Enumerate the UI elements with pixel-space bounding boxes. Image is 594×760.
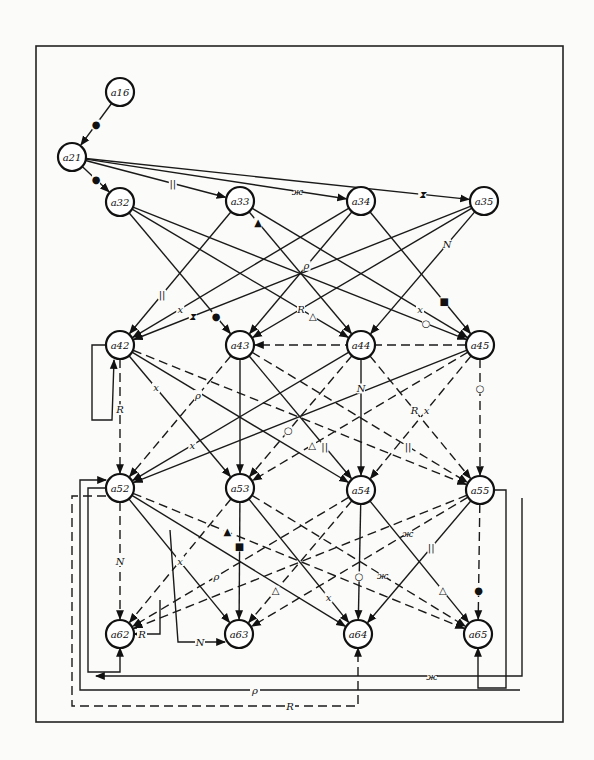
edge-a55-a65 bbox=[478, 504, 480, 619]
edge-marker: х bbox=[417, 304, 423, 315]
edge-marker: ▲ bbox=[224, 526, 232, 537]
edge-marker: ○ bbox=[422, 318, 431, 329]
edge-marker: ρ bbox=[251, 685, 258, 696]
routed-edge bbox=[80, 480, 520, 690]
node-label: a44 bbox=[352, 340, 371, 351]
node-label: a45 bbox=[471, 340, 490, 351]
node-a53: a53 bbox=[226, 474, 254, 502]
node-a63: a63 bbox=[225, 620, 253, 648]
node-label: a52 bbox=[111, 483, 130, 494]
node-a34: a34 bbox=[347, 187, 375, 215]
node-label: a63 bbox=[230, 629, 249, 640]
node-a55: a55 bbox=[466, 476, 494, 504]
edge-marker: △ bbox=[272, 585, 280, 596]
edge-marker: N bbox=[356, 383, 367, 394]
edge-marker: ж bbox=[426, 671, 438, 682]
node-a21: a21 bbox=[58, 143, 86, 171]
edge-marker: ○ bbox=[284, 425, 293, 436]
edge-marker: R bbox=[285, 701, 294, 712]
node-label: a62 bbox=[111, 629, 130, 640]
edge-marker: ■ bbox=[440, 296, 449, 307]
edge-marker: ● bbox=[474, 585, 483, 596]
edge-marker: ● bbox=[92, 174, 101, 185]
node-label: a43 bbox=[231, 340, 250, 351]
edge-a21-a35 bbox=[86, 158, 469, 199]
edge-a44-a55 bbox=[370, 356, 471, 479]
edge-marker: ⧗ bbox=[189, 311, 197, 322]
edge-a53-a64 bbox=[249, 499, 349, 622]
edge-marker: х bbox=[177, 556, 183, 567]
node-label: a34 bbox=[352, 196, 371, 207]
node-a54: a54 bbox=[347, 476, 375, 504]
edge-marker: N bbox=[442, 239, 453, 250]
edge-marker: || bbox=[405, 441, 412, 453]
edge-marker: ρ bbox=[303, 260, 310, 271]
node-a43: a43 bbox=[226, 331, 254, 359]
edge-marker: х bbox=[424, 405, 430, 416]
edge-marker: N bbox=[195, 637, 206, 648]
routed-edge bbox=[96, 498, 522, 676]
node-a64: a64 bbox=[344, 620, 372, 648]
node-label: a65 bbox=[469, 629, 488, 640]
edge-marker: ρ bbox=[212, 571, 219, 582]
edge-a53-a63 bbox=[239, 502, 240, 619]
edge-marker: R bbox=[410, 405, 419, 416]
edge-marker: х bbox=[153, 382, 159, 393]
node-label: a53 bbox=[231, 483, 250, 494]
node-label: a64 bbox=[349, 629, 368, 640]
edge-marker: ■ bbox=[235, 541, 244, 552]
edge-marker: ж bbox=[292, 186, 304, 197]
edge-markers-layer: ●●||ж⧗●△○||▲ххρ■⧗RNхRρ||||х○RN△х○▲Nххж■ρ… bbox=[92, 119, 485, 712]
edge-marker: || bbox=[428, 542, 435, 554]
edge-marker: △ bbox=[309, 311, 317, 322]
edge-a45-a54 bbox=[371, 356, 472, 479]
node-label: a42 bbox=[111, 340, 130, 351]
edge-marker: ▲ bbox=[254, 217, 262, 228]
edge-marker: х bbox=[177, 304, 183, 315]
node-a35: a35 bbox=[470, 187, 498, 215]
node-a16: a16 bbox=[106, 78, 134, 106]
node-label: a21 bbox=[63, 152, 82, 163]
edge-a35-a44 bbox=[371, 212, 475, 334]
edge-marker: || bbox=[169, 178, 176, 190]
node-a45: a45 bbox=[466, 331, 494, 359]
edge-marker: ж bbox=[377, 570, 389, 581]
edge-marker: х bbox=[326, 592, 332, 603]
routed-edge bbox=[72, 496, 358, 706]
node-label: a32 bbox=[111, 197, 130, 208]
edge-a35-a43 bbox=[253, 208, 472, 337]
edge-a33-a45 bbox=[252, 208, 467, 337]
edge-marker: || bbox=[321, 441, 328, 453]
node-label: a54 bbox=[352, 485, 371, 496]
edge-marker: R bbox=[296, 304, 305, 315]
edge-marker: △ bbox=[439, 585, 447, 596]
edge-marker: R bbox=[115, 404, 124, 415]
edge-marker: х bbox=[189, 440, 195, 451]
edge-marker: ○ bbox=[476, 383, 485, 394]
node-a65: a65 bbox=[464, 620, 492, 648]
edge-marker: || bbox=[159, 289, 166, 301]
edge-marker: ● bbox=[212, 311, 221, 322]
edge-marker: R bbox=[137, 629, 146, 640]
edge-a55-a64 bbox=[368, 501, 471, 623]
node-a33: a33 bbox=[226, 187, 254, 215]
node-label: a33 bbox=[231, 196, 250, 207]
edge-a44-a52 bbox=[133, 352, 349, 480]
edge-marker: ○ bbox=[355, 571, 364, 582]
edge-a45-a52 bbox=[134, 350, 467, 482]
edge-marker: △ bbox=[308, 440, 316, 451]
node-label: a35 bbox=[475, 196, 494, 207]
node-a44: a44 bbox=[347, 331, 375, 359]
edge-marker: ⧗ bbox=[419, 189, 427, 200]
edge-marker: ● bbox=[92, 119, 101, 130]
edge-marker: ж bbox=[402, 528, 414, 539]
edge-marker: N bbox=[115, 556, 126, 567]
node-a62: a62 bbox=[106, 620, 134, 648]
edge-a34-a45 bbox=[370, 212, 471, 334]
node-a42: a42 bbox=[106, 331, 134, 359]
node-label: a16 bbox=[111, 87, 130, 98]
graph-diagram: ●●||ж⧗●△○||▲ххρ■⧗RNхRρ||||х○RN△х○▲Nххж■ρ… bbox=[0, 0, 594, 760]
node-label: a55 bbox=[471, 485, 490, 496]
edge-marker: ρ bbox=[194, 390, 201, 401]
node-a32: a32 bbox=[106, 188, 134, 216]
